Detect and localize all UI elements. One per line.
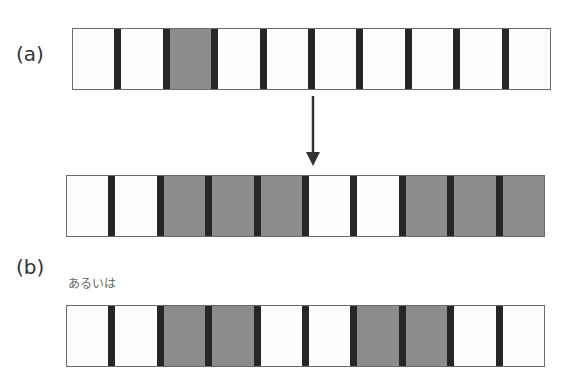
separator-bar xyxy=(350,306,357,366)
cell-gray xyxy=(261,176,302,236)
cell-white xyxy=(261,306,302,366)
cell-white xyxy=(315,29,356,89)
separator-bar xyxy=(108,306,115,366)
separator-bar xyxy=(350,176,357,236)
cell-white xyxy=(309,176,350,236)
separator-bar xyxy=(254,176,261,236)
separator-bar xyxy=(260,29,267,89)
separator-bar xyxy=(453,29,460,89)
separator-bar xyxy=(157,176,164,236)
cell-white xyxy=(67,176,108,236)
cell-white xyxy=(503,306,544,366)
separator-bar xyxy=(114,29,121,89)
or-text: あるいは xyxy=(68,274,116,291)
cell-white xyxy=(460,29,501,89)
cell-gray xyxy=(503,176,544,236)
cell-gray xyxy=(164,176,205,236)
cell-white xyxy=(73,29,114,89)
cell-gray xyxy=(454,176,495,236)
separator-bar xyxy=(496,306,503,366)
separator-bar xyxy=(302,306,309,366)
separator-bar xyxy=(163,29,170,89)
down-arrow-icon xyxy=(303,96,323,168)
separator-bar xyxy=(496,176,503,236)
separator-bar xyxy=(157,306,164,366)
cell-gray xyxy=(406,176,447,236)
separator-bar xyxy=(447,176,454,236)
separator-bar xyxy=(308,29,315,89)
strip-b-result-2 xyxy=(66,305,545,367)
separator-bar xyxy=(399,306,406,366)
cell-white xyxy=(509,29,550,89)
separator-bar xyxy=(356,29,363,89)
label-a: (a) xyxy=(16,42,44,66)
separator-bar xyxy=(405,29,412,89)
separator-bar xyxy=(211,29,218,89)
cell-white xyxy=(412,29,453,89)
separator-bar xyxy=(447,306,454,366)
separator-bar xyxy=(254,306,261,366)
separator-bar xyxy=(205,176,212,236)
cell-white xyxy=(357,176,398,236)
separator-bar xyxy=(502,29,509,89)
label-b: (b) xyxy=(16,255,44,279)
cell-white xyxy=(67,306,108,366)
cell-white xyxy=(309,306,350,366)
cell-gray xyxy=(164,306,205,366)
strip-b-result-1 xyxy=(66,175,545,237)
cell-gray xyxy=(212,306,253,366)
cell-white xyxy=(218,29,259,89)
strip-a-initial xyxy=(72,28,551,90)
cell-white xyxy=(454,306,495,366)
separator-bar xyxy=(399,176,406,236)
cell-gray xyxy=(357,306,398,366)
cell-gray xyxy=(406,306,447,366)
separator-bar xyxy=(205,306,212,366)
cell-white xyxy=(267,29,308,89)
separator-bar xyxy=(302,176,309,236)
cell-white xyxy=(121,29,162,89)
separator-bar xyxy=(108,176,115,236)
cell-white xyxy=(115,306,156,366)
cell-white xyxy=(115,176,156,236)
cell-gray xyxy=(212,176,253,236)
cell-gray xyxy=(170,29,211,89)
cell-white xyxy=(363,29,404,89)
